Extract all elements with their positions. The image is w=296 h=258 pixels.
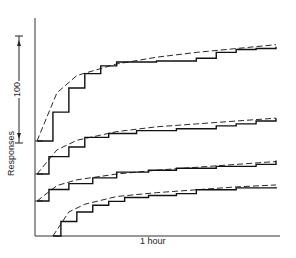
cumulative-record-figure: 100 Responses 1 hour [0,0,296,258]
plot-area [0,0,296,258]
cumulative-record [53,187,276,236]
fitted-curve [37,118,276,174]
scale-bar-label: 100 [12,81,22,98]
fitted-curve [37,45,276,141]
cumulative-record [37,118,276,174]
fitted-curve [53,185,276,236]
cumulative-record [37,47,276,141]
y-axis-label: Responses [6,131,16,176]
x-axis-label: 1 hour [140,236,166,246]
